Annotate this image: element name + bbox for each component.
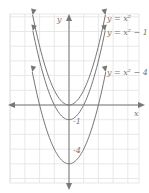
- curve-label-y-x2: y = x²: [106, 14, 131, 23]
- y-axis-label: y: [56, 15, 62, 24]
- curve-label-y-x2-minus-1: y = x² − 1: [106, 28, 148, 37]
- tick-label-minus-1: -1: [73, 117, 81, 126]
- grid: [10, 14, 139, 183]
- tick-label-minus-4: -4: [73, 146, 81, 155]
- curve-label-y-x2-minus-4: y = x² − 4: [106, 68, 148, 77]
- parabola-graph: y x y = x² y = x² − 1 y = x² − 4 -1 -4: [0, 0, 149, 193]
- x-axis-label: x: [134, 109, 139, 118]
